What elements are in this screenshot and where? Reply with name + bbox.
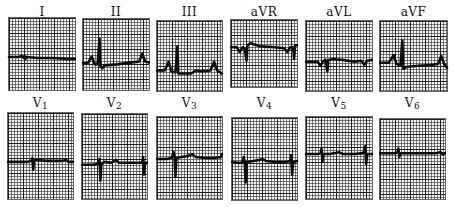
- ecg-trace-V4: [232, 118, 297, 200]
- lead-V4: V4: [231, 97, 298, 201]
- ecg-trace-V1: [8, 113, 73, 199]
- lead-label-V4: V4: [231, 97, 298, 112]
- ecg-trace-V6: [380, 119, 445, 199]
- grid-paper: [81, 113, 148, 200]
- grid-paper: [156, 20, 223, 92]
- lead-name: aVR: [251, 5, 277, 19]
- lead-label-V2: V2: [81, 97, 148, 112]
- lead-II: II: [82, 6, 150, 91]
- ecg-trace-V3: [157, 117, 222, 199]
- grid-paper: [379, 118, 446, 200]
- ecg-trace-V2: [82, 114, 147, 199]
- lead-label-V1: V1: [7, 97, 74, 112]
- lead-subscript: 3: [191, 101, 197, 111]
- ecg-trace-aVR: [231, 20, 297, 87]
- lead-label-aVR: aVR: [230, 6, 298, 18]
- lead-V2: V2: [81, 97, 148, 200]
- grid-paper: [379, 20, 448, 92]
- lead-name: aVL: [326, 5, 351, 19]
- lead-name: aVF: [401, 5, 427, 19]
- grid-paper: [82, 18, 150, 91]
- lead-label-III: III: [156, 6, 223, 18]
- lead-name: II: [111, 5, 121, 19]
- ecg-trace-aVL: [306, 21, 372, 91]
- ecg-trace-III: [157, 21, 222, 91]
- ecg-trace-aVF: [380, 21, 447, 91]
- lead-name: III: [182, 5, 198, 19]
- lead-V3: V3: [156, 97, 223, 200]
- lead-label-V6: V6: [379, 97, 446, 112]
- lead-label-II: II: [82, 6, 150, 18]
- grid-paper: [230, 19, 298, 88]
- lead-I: I: [8, 6, 76, 91]
- lead-label-V5: V5: [305, 97, 373, 112]
- lead-aVR: aVR: [230, 6, 298, 88]
- lead-subscript: 4: [266, 101, 272, 111]
- grid-paper: [7, 112, 74, 200]
- lead-subscript: 1: [42, 101, 48, 111]
- lead-name: V: [182, 96, 191, 110]
- ecg-trace-V5: [306, 117, 372, 199]
- lead-V1: V1: [7, 97, 74, 200]
- lead-name: V: [107, 96, 116, 110]
- lead-V6: V6: [379, 97, 446, 200]
- lead-aVF: aVF: [379, 6, 448, 92]
- lead-label-V3: V3: [156, 97, 223, 112]
- lead-name: V: [405, 96, 414, 110]
- lead-V5: V5: [305, 97, 373, 200]
- lead-subscript: 2: [116, 101, 122, 111]
- grid-paper: [305, 20, 373, 92]
- grid-paper: [156, 116, 223, 200]
- grid-paper: [8, 17, 76, 91]
- lead-label-aVF: aVF: [379, 6, 448, 18]
- ecg-trace-II: [83, 19, 149, 90]
- lead-label-aVL: aVL: [305, 6, 373, 18]
- lead-aVL: aVL: [305, 6, 373, 92]
- lead-name: V: [257, 96, 266, 110]
- lead-III: III: [156, 6, 223, 92]
- grid-paper: [231, 117, 298, 201]
- lead-subscript: 5: [340, 101, 346, 111]
- lead-name: V: [33, 96, 42, 110]
- grid-paper: [305, 116, 373, 200]
- lead-subscript: 6: [414, 101, 420, 111]
- ecg-trace-I: [9, 18, 75, 90]
